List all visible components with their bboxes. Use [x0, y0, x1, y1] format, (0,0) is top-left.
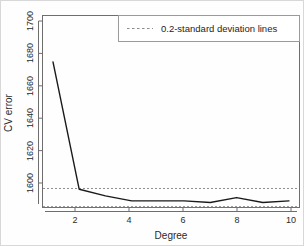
reference-lines: [43, 188, 299, 206]
x-tick-label-2: 2: [72, 215, 77, 225]
chart-canvas: [1, 1, 304, 246]
y-tick-label-1640: 1640: [25, 108, 35, 128]
y-tick-label-1660: 1660: [25, 76, 35, 96]
y-axis: [39, 21, 43, 204]
legend-entry-label: 0.2-standard deviation lines: [161, 23, 277, 34]
y-tick-label-1600: 1600: [25, 173, 35, 193]
y-tick-label-1700: 1700: [25, 11, 35, 31]
y-tick-label-1620: 1620: [25, 141, 35, 161]
y-axis-title: CV error: [3, 94, 14, 132]
x-tick-label-4: 4: [126, 215, 131, 225]
x-axis-title: Degree: [155, 230, 188, 241]
x-tick-label-10: 10: [286, 215, 296, 225]
plot-panel-border: [43, 16, 300, 208]
cv-error-curve: [53, 62, 289, 203]
x-tick-label-6: 6: [180, 215, 185, 225]
x-tick-label-8: 8: [234, 215, 239, 225]
y-tick-label-1680: 1680: [25, 43, 35, 63]
chart-figure: 1700 1680 1660 1640 1620 1600 CV error 2…: [0, 0, 304, 246]
x-axis: [45, 208, 297, 212]
